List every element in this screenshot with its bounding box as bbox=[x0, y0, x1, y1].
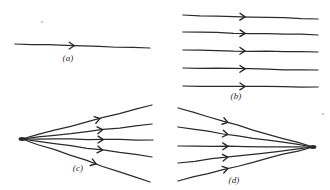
ray-diagram-figure: (a)(b)(c)(d) bbox=[0, 0, 330, 190]
ray bbox=[22, 124, 152, 139]
paper-speck bbox=[322, 113, 324, 115]
ray-line bbox=[183, 32, 318, 35]
panels-layer bbox=[15, 13, 318, 182]
panel-caption-a: (a) bbox=[62, 53, 73, 63]
ray bbox=[183, 83, 318, 90]
ray bbox=[22, 139, 150, 182]
ray-line bbox=[15, 44, 150, 48]
ray bbox=[178, 147, 313, 181]
ray bbox=[183, 13, 318, 20]
ray bbox=[178, 108, 313, 147]
panel-b bbox=[183, 13, 318, 90]
panel-a bbox=[15, 42, 150, 49]
ray-line bbox=[178, 147, 313, 181]
ray-line bbox=[178, 147, 313, 163]
panel-c bbox=[19, 105, 153, 182]
ray-line bbox=[183, 15, 318, 19]
ray bbox=[22, 105, 152, 139]
ray-line bbox=[178, 108, 313, 147]
panel-d bbox=[178, 108, 316, 181]
ray bbox=[22, 139, 152, 157]
ray-line bbox=[183, 86, 318, 87]
ray-line bbox=[22, 139, 152, 157]
ray bbox=[183, 30, 318, 37]
ray bbox=[183, 47, 318, 54]
ray-line bbox=[183, 50, 318, 52]
ray bbox=[183, 65, 318, 72]
ray bbox=[178, 127, 313, 147]
focal-point-marker bbox=[310, 145, 317, 149]
ray-line bbox=[22, 139, 153, 140]
ray bbox=[178, 147, 313, 163]
ray-line bbox=[22, 105, 152, 139]
ray bbox=[15, 42, 150, 49]
focal-point-marker bbox=[19, 137, 26, 141]
ray-diagram-canvas bbox=[0, 0, 330, 190]
ray-line bbox=[22, 124, 152, 139]
panel-caption-b: (b) bbox=[230, 91, 241, 101]
ray-line bbox=[178, 127, 313, 147]
ray-line bbox=[183, 68, 318, 70]
panel-caption-c: (c) bbox=[73, 163, 84, 173]
ray-line bbox=[22, 139, 150, 182]
panel-caption-d: (d) bbox=[228, 175, 239, 185]
ray-line bbox=[178, 146, 313, 147]
paper-speck bbox=[41, 21, 43, 23]
